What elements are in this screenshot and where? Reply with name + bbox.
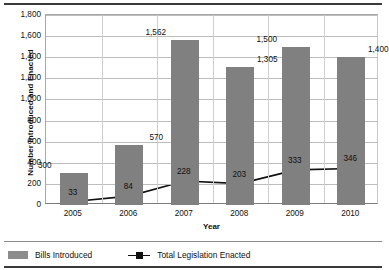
- x-axis-tick-label-2007: 2007: [175, 209, 193, 218]
- gridline-horizontal: [46, 78, 377, 79]
- line-marker-swatch-icon: [128, 251, 150, 260]
- x-axis-tick-label-2006: 2006: [119, 209, 137, 218]
- line-value-label-2009: 333: [288, 156, 302, 165]
- bar-2009: [282, 47, 310, 205]
- x-axis-tick-label-2008: 2008: [230, 209, 248, 218]
- y-axis-tick-label: 800: [1, 115, 41, 124]
- bar-2010: [337, 57, 365, 205]
- y-axis-tick-label: 0: [1, 200, 41, 209]
- y-axis-tick-label: 1,600: [1, 31, 41, 40]
- x-axis-title: Year: [45, 222, 378, 231]
- legend-item-bills-introduced: Bills Introduced: [8, 250, 92, 260]
- line-value-label-2006: 84: [124, 182, 133, 191]
- gridline-horizontal: [46, 36, 377, 37]
- gridline-horizontal: [46, 57, 377, 58]
- line-value-label-2005: 33: [68, 188, 77, 197]
- bar-value-label-2008: 1,305: [257, 55, 278, 64]
- bar-value-label-2005: 300: [38, 161, 52, 170]
- bar-2008: [226, 67, 254, 205]
- gridline-vertical: [102, 15, 103, 203]
- line-value-label-2008: 203: [232, 170, 246, 179]
- bar-value-label-2006: 570: [149, 133, 163, 142]
- gridline-vertical: [213, 15, 214, 203]
- bar-2006: [115, 145, 143, 205]
- bar-value-label-2010: 1,400: [368, 45, 389, 54]
- x-axis-tick-label-2005: 2005: [64, 209, 82, 218]
- gridline-horizontal: [46, 184, 377, 185]
- bar-2007: [171, 40, 199, 205]
- bar-swatch-icon: [8, 251, 28, 259]
- chart-legend: Bills Introduced Total Legislation Enact…: [8, 248, 250, 262]
- legend-top-rule: [4, 241, 382, 242]
- legend-label-bills-introduced: Bills Introduced: [35, 250, 92, 260]
- y-axis-tick-label: 400: [1, 157, 41, 166]
- line-value-label-2007: 228: [177, 167, 191, 176]
- legend-label-total-legislation-enacted: Total Legislation Enacted: [157, 250, 250, 260]
- y-axis-tick-label: 600: [1, 136, 41, 145]
- plot-area: [45, 14, 378, 204]
- gridline-horizontal: [46, 15, 377, 16]
- gridline-horizontal: [46, 163, 377, 164]
- y-axis-tick-label: 1,000: [1, 94, 41, 103]
- gridline-horizontal: [46, 99, 377, 100]
- y-axis-title: Number Introduced and Enacted: [26, 23, 35, 203]
- gridline-horizontal: [46, 142, 377, 143]
- top-divider-rule: [4, 3, 382, 5]
- line-value-label-2010: 346: [343, 154, 357, 163]
- bar-value-label-2009: 1,500: [257, 35, 278, 44]
- gridline-vertical: [157, 15, 158, 203]
- y-axis-tick-label: 1,400: [1, 52, 41, 61]
- bar-value-label-2007: 1,562: [146, 28, 167, 37]
- legend-bottom-rule: [4, 266, 382, 268]
- y-axis-tick-label: 200: [1, 178, 41, 187]
- x-axis-tick-label-2010: 2010: [341, 209, 359, 218]
- x-axis-tick-label-2009: 2009: [286, 209, 304, 218]
- gridline-vertical: [324, 15, 325, 203]
- y-axis-tick-label: 1,800: [1, 10, 41, 19]
- y-axis-tick-label: 1,200: [1, 73, 41, 82]
- gridline-horizontal: [46, 121, 377, 122]
- legend-item-total-legislation-enacted: Total Legislation Enacted: [128, 250, 250, 260]
